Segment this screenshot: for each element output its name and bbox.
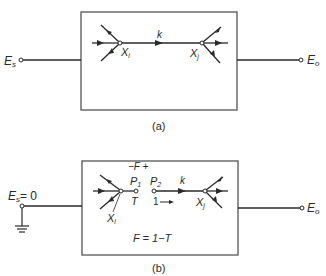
- network-box-a: [81, 12, 237, 110]
- panel-b: Es= 0 Eo −F + Xi P1 T P2 1 k Xj: [8, 161, 320, 274]
- output-terminal-b: [300, 206, 304, 210]
- input-terminal-b: [20, 204, 24, 208]
- arrow-icon: [217, 176, 222, 182]
- signal-flow-diagram: Es Eo Xi k Xj (a): [0, 0, 326, 276]
- arrow-icon: [216, 188, 223, 194]
- return-difference-equation: F = 1−T: [133, 232, 173, 244]
- output-label-b: Eo: [307, 201, 320, 216]
- port-p1: [134, 189, 138, 193]
- arrow-icon: [98, 188, 105, 194]
- node-xi-b: [119, 189, 123, 193]
- unit-source-label: 1: [153, 196, 159, 207]
- caption-a: (a): [152, 120, 165, 132]
- node-xi-label-a: Xi: [120, 46, 130, 59]
- input-label-b: Es= 0: [8, 189, 37, 204]
- port-p2: [152, 189, 156, 193]
- node-xj-label-b: Xj: [195, 196, 205, 210]
- panel-a: Es Eo Xi k Xj (a): [4, 12, 320, 132]
- arrow-icon: [97, 40, 104, 46]
- output-label-a: Eo: [307, 53, 320, 68]
- input-label-a: Es: [4, 54, 16, 69]
- arrow-icon: [178, 188, 186, 194]
- caption-b: (b): [152, 262, 165, 274]
- branch-gain-b: k: [180, 175, 186, 186]
- arrow-icon: [108, 196, 114, 202]
- node-xi-a: [118, 41, 122, 45]
- output-terminal-a: [299, 58, 303, 62]
- ground-icon: [15, 226, 29, 232]
- arrow-icon: [169, 200, 174, 204]
- arrow-icon: [155, 40, 163, 46]
- port-p1-label: P1: [130, 175, 141, 188]
- branch-gain-a: k: [157, 29, 163, 40]
- node-xj-label-a: Xj: [189, 47, 199, 61]
- arrow-icon: [215, 40, 222, 46]
- input-terminal-a: [19, 58, 23, 62]
- node-xi-label-b: Xi: [106, 212, 116, 225]
- return-difference-label: −F +: [128, 161, 149, 172]
- port-p2-label: P2: [150, 175, 161, 188]
- return-ratio-label: T: [131, 195, 139, 207]
